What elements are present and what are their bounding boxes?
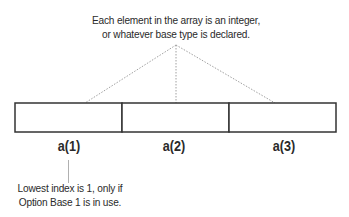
lowest-index-annotation-line-2: Option Base 1 is in use.: [6, 195, 135, 209]
array-cell-3: [229, 103, 336, 132]
element-type-annotation: Each element in the array is an integer,…: [82, 13, 270, 41]
cell-label-2: a(2): [147, 138, 201, 154]
element-type-annotation-line-1: Each element in the array is an integer,: [82, 13, 270, 27]
array-cell-2: [122, 103, 229, 132]
array-cell-1: [15, 103, 122, 132]
lowest-index-annotation: Lowest index is 1, only if Option Base 1…: [6, 181, 135, 209]
element-type-annotation-line-2: or whatever base type is declared.: [82, 27, 270, 41]
cell-label-1: a(1): [42, 138, 96, 154]
connector-line-cell-1: [85, 45, 176, 103]
lowest-index-annotation-line-1: Lowest index is 1, only if: [6, 181, 135, 195]
connector-line-cell-3: [176, 45, 275, 103]
cell-label-3: a(3): [257, 138, 311, 154]
